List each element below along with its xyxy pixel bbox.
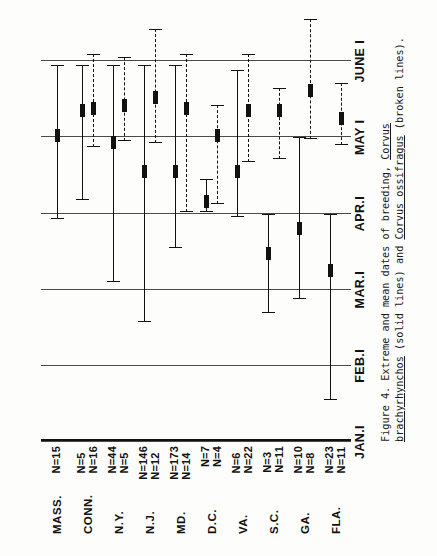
row-label-group: CONN.N=5N=16 <box>72 442 103 534</box>
range-cap-latest <box>262 214 275 215</box>
figure-body: MASS.N=15CONN.N=5N=16N.Y.N=44N=5N.J.N=14… <box>23 18 415 538</box>
sample-size-label: N=15 <box>50 446 62 473</box>
range-cap-latest <box>50 65 63 66</box>
row-label-group: VA.N=6N=22 <box>227 442 258 534</box>
sample-size-label: N=22 <box>242 446 254 473</box>
caption-mid: (solid lines) and <box>394 240 405 357</box>
mean-marker <box>121 99 126 112</box>
chart-row: VA.N=6N=22 <box>227 46 258 442</box>
range-shaft <box>237 70 238 217</box>
range-cap-earliest <box>262 312 275 313</box>
range-shaft <box>113 65 114 282</box>
range-cap-latest <box>334 83 347 84</box>
range-shaft <box>299 137 300 298</box>
range-shaft <box>175 65 176 248</box>
range-cap-earliest <box>138 321 151 322</box>
sample-size-group: N=23N=11 <box>324 446 347 473</box>
mean-marker <box>80 104 85 117</box>
chart-row: MD.N=173N=14 <box>165 46 196 442</box>
category-label: VA. <box>236 514 248 534</box>
sample-size-label: N=14 <box>180 446 192 480</box>
sample-size-group: N=10N=8 <box>293 446 316 473</box>
figure-page: MASS.N=15CONN.N=5N=16N.Y.N=44N=5N.J.N=14… <box>0 0 437 556</box>
mean-marker <box>266 247 271 260</box>
range-cap-earliest <box>324 399 337 400</box>
caption-prefix: Figure 4. Extreme and mean dates of bree… <box>380 160 391 442</box>
row-label-group: GA.N=10N=8 <box>289 442 320 534</box>
chart-row: N.J.N=146N=12 <box>134 46 165 442</box>
sample-size-group: N=44N=5 <box>107 446 130 473</box>
sample-size-label: N=11 <box>335 446 347 473</box>
range-cap-latest <box>324 214 337 215</box>
sample-size-group: N=7N=4 <box>200 446 223 467</box>
category-label: N.J. <box>143 511 155 534</box>
range-cap-earliest <box>334 144 347 145</box>
range-cap-earliest <box>179 211 192 212</box>
range-cap-latest <box>272 88 285 89</box>
tick-label-june-i: JUNE I <box>353 40 367 83</box>
chart-row: FLA.N=23N=11 <box>320 46 351 442</box>
sample-size-group: N=173N=14 <box>169 446 192 480</box>
range-cap-latest <box>117 57 130 58</box>
row-label-group: S.C.N=3N=11 <box>258 442 289 534</box>
mean-marker <box>111 136 116 149</box>
range-cap-latest <box>76 65 89 66</box>
range-cap-latest <box>231 70 244 71</box>
sample-size-label: N=44 <box>107 446 119 473</box>
sample-size-group: N=15 <box>50 446 62 473</box>
mean-marker <box>328 264 333 277</box>
sample-size-group: N=5N=16 <box>76 446 99 473</box>
tick-label-jan-i: JAN.I <box>353 425 367 459</box>
tick-label-feb-i: FEB.I <box>353 349 367 383</box>
range-shaft <box>92 54 93 147</box>
range-cap-earliest <box>169 247 182 248</box>
sample-size-label: N=8 <box>304 446 316 473</box>
range-cap-latest <box>303 19 316 20</box>
category-label: MASS. <box>50 495 62 534</box>
sample-size-label: N=16 <box>87 446 99 473</box>
mean-marker <box>152 91 157 104</box>
range-shaft <box>268 214 269 313</box>
sample-size-label: N=10 <box>293 446 305 473</box>
sample-size-label: N=173 <box>169 446 181 480</box>
range-cap-latest <box>210 105 223 106</box>
row-label-group: FLA.N=23N=11 <box>320 442 351 534</box>
range-cap-earliest <box>50 218 63 219</box>
range-cap-earliest <box>76 199 89 200</box>
range-cap-latest <box>148 29 161 30</box>
category-label: S.C. <box>267 510 279 534</box>
range-shaft <box>144 65 145 322</box>
axis-tick-labels: JAN.IFEB.IMAR.IAPR.IMAY IJUNE I <box>353 46 375 442</box>
sample-size-label: N=7 <box>200 446 212 467</box>
sample-size-group: N=146N=12 <box>138 446 161 480</box>
range-shaft <box>56 65 57 219</box>
tick-label-mar-i: MAR.I <box>353 271 367 308</box>
category-label: D.C. <box>205 509 217 534</box>
range-cap-latest <box>179 54 192 55</box>
range-cap-earliest <box>86 146 99 147</box>
mean-marker <box>54 129 59 142</box>
plot-area: MASS.N=15CONN.N=5N=16N.Y.N=44N=5N.J.N=14… <box>41 46 351 442</box>
range-cap-earliest <box>241 161 254 162</box>
range-shaft <box>278 88 279 159</box>
mean-marker <box>90 102 95 115</box>
mean-marker <box>235 165 240 178</box>
mean-marker <box>173 165 178 178</box>
range-shaft <box>330 214 331 401</box>
figure-caption: Figure 4. Extreme and mean dates of bree… <box>379 32 407 442</box>
sample-size-group: N=3N=11 <box>262 446 285 473</box>
chart-row: D.C.N=7N=4 <box>196 46 227 442</box>
tick-label-may-i: MAY I <box>353 120 367 155</box>
mean-marker <box>297 222 302 235</box>
range-cap-earliest <box>231 216 244 217</box>
range-cap-latest <box>241 54 254 55</box>
category-label: GA. <box>298 512 310 534</box>
sample-size-label: N=146 <box>138 446 150 480</box>
range-cap-latest <box>138 65 151 66</box>
sample-size-label: N=12 <box>149 446 161 480</box>
mean-marker <box>183 102 188 115</box>
chart-row: GA.N=10N=8 <box>289 46 320 442</box>
mean-marker <box>276 104 281 117</box>
range-shaft <box>216 105 217 205</box>
range-cap-earliest <box>107 281 120 282</box>
